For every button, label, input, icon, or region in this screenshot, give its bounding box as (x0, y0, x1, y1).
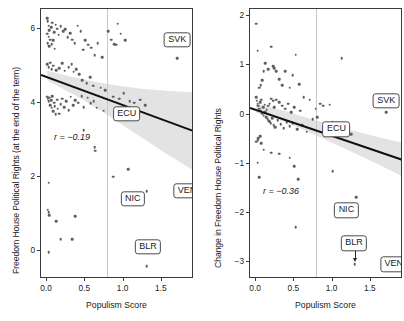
y-tick-label: 2 (221, 10, 244, 20)
data-point (71, 38, 74, 41)
data-point (75, 68, 78, 71)
plot-area: r = −0.19SVKECUNICVENBLR (41, 9, 192, 277)
data-point (53, 47, 56, 50)
data-point (282, 127, 285, 130)
country-label-blr: BLR (341, 235, 367, 250)
data-point (116, 22, 119, 25)
data-point (93, 146, 96, 149)
country-label-blr: BLR (135, 239, 161, 254)
data-point (273, 106, 276, 109)
data-point (124, 39, 127, 42)
data-point (63, 106, 66, 109)
data-point (263, 103, 266, 106)
data-point (145, 190, 148, 193)
data-point (49, 61, 52, 64)
data-point (284, 107, 287, 110)
data-point (56, 27, 59, 30)
data-point (127, 168, 130, 171)
x-axis-title: Populism Score (40, 300, 193, 310)
data-point (295, 53, 298, 56)
y-tick-mark (246, 212, 249, 213)
data-point (270, 152, 273, 155)
x-tick-mark (84, 278, 85, 281)
x-axis-title: Populism Score (249, 300, 402, 310)
data-point (281, 104, 284, 107)
data-point (104, 89, 107, 92)
data-point (47, 20, 50, 23)
country-label-svk: SVK (373, 93, 400, 108)
data-point (110, 38, 113, 41)
data-point (118, 98, 121, 101)
data-point (50, 43, 53, 46)
data-point (55, 220, 58, 223)
data-point (331, 170, 334, 173)
data-point (54, 113, 57, 116)
data-point (57, 108, 60, 111)
x-tick-mark (370, 278, 371, 281)
x-tick-mark (332, 278, 333, 281)
y-tick-mark (246, 163, 249, 164)
data-point (60, 238, 63, 241)
x-tick-mark (255, 278, 256, 281)
data-point (101, 56, 104, 59)
data-point (302, 96, 305, 99)
data-point (266, 108, 269, 111)
plot-area: r = −0.36SVKECUNICBLRVEN (250, 9, 401, 277)
x-tick-label: 0.0 (30, 283, 62, 293)
x-tick-mark (293, 278, 294, 281)
x-tick-mark (123, 278, 124, 281)
y-tick-mark (37, 28, 40, 29)
data-point (78, 73, 81, 76)
data-point (273, 67, 276, 70)
data-point (92, 100, 95, 103)
panel-right: r = −0.36SVKECUNICBLRVEN210−1−2−30.00.51… (202, 0, 404, 321)
data-point (354, 263, 357, 266)
data-point (260, 99, 263, 102)
data-point (87, 44, 90, 47)
data-point (53, 105, 56, 108)
data-point (355, 196, 358, 199)
data-point (299, 109, 302, 112)
confidence-band (41, 9, 192, 277)
data-point (47, 251, 50, 254)
x-tick-label: 0.5 (68, 283, 100, 293)
y-axis-title: Change in Freedom House Political Rights (213, 108, 223, 268)
data-point (295, 226, 298, 229)
reference-line-vertical (316, 9, 317, 277)
country-label-ecu: ECU (323, 122, 351, 137)
data-point (79, 30, 82, 33)
data-point (74, 215, 77, 218)
data-point (86, 96, 89, 99)
data-point (278, 101, 281, 104)
country-label-ecu: ECU (113, 106, 141, 121)
data-point (82, 48, 85, 51)
y-tick-label: −1 (221, 158, 244, 168)
data-point (77, 101, 80, 104)
y-tick-label: 0 (221, 109, 244, 119)
data-point (385, 111, 388, 114)
data-point (73, 42, 76, 45)
data-point (71, 238, 74, 241)
data-point (56, 98, 59, 101)
y-axis-title: Freedom House Political Rights (at the e… (11, 67, 21, 274)
annotation-arrow-line (355, 250, 356, 258)
data-point (48, 29, 51, 32)
y-tick-label: −2 (221, 207, 244, 217)
y-tick-label: −3 (221, 256, 244, 266)
data-point (261, 79, 264, 82)
data-point (267, 68, 270, 71)
data-point (76, 24, 79, 27)
data-point (298, 83, 301, 86)
data-point (290, 111, 293, 114)
data-point (122, 92, 125, 95)
x-tick-label: 0.5 (277, 283, 309, 293)
data-point (139, 98, 142, 101)
data-point (94, 149, 97, 152)
data-point (70, 63, 73, 66)
data-point (276, 119, 279, 122)
data-point (66, 36, 69, 39)
data-point (80, 95, 83, 98)
country-label-ven: VEN (173, 183, 192, 198)
data-point (112, 175, 115, 178)
data-point (73, 71, 76, 74)
